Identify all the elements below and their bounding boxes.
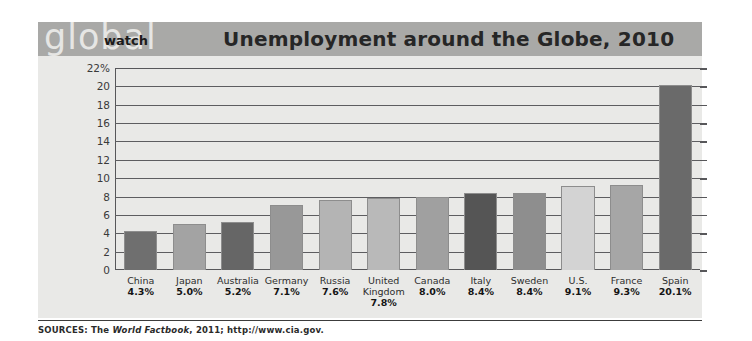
- y-axis-right-tick: [700, 270, 707, 272]
- bar-slot: [214, 68, 263, 270]
- y-axis-tick-label: 16: [50, 117, 110, 129]
- bar-slot: [117, 68, 166, 270]
- category-cell: Canada8.0%: [408, 272, 457, 309]
- category-name: Italy: [458, 275, 505, 286]
- y-axis-right-tick: [700, 197, 707, 199]
- category-cell: Japan5.0%: [165, 272, 214, 309]
- bar-france[interactable]: [610, 185, 643, 270]
- y-axis-right-tick: [700, 178, 707, 180]
- category-cell: U.S.9.1%: [554, 272, 603, 309]
- category-name: Japan: [166, 275, 213, 286]
- category-cell: United Kingdom7.8%: [359, 272, 408, 309]
- bar-slot: [457, 68, 506, 270]
- bars-container: [117, 68, 700, 270]
- source-divider: [38, 320, 702, 321]
- category-cell: France9.3%: [602, 272, 651, 309]
- bar-slot: [262, 68, 311, 270]
- bar-china[interactable]: [124, 231, 157, 270]
- category-value: 4.3%: [118, 286, 165, 298]
- bar-slot: [359, 68, 408, 270]
- chart-header-band: global watch Unemployment around the Glo…: [38, 22, 702, 56]
- category-value: 7.6%: [312, 286, 359, 298]
- bar-slot: [554, 68, 603, 270]
- y-axis-tick-label: 14: [50, 135, 110, 147]
- category-cell: Sweden8.4%: [505, 272, 554, 309]
- global-watch-logo: global watch: [44, 22, 244, 56]
- category-name: Canada: [409, 275, 456, 286]
- category-value: 8.0%: [409, 286, 456, 298]
- source-note: SOURCES: The World Factbook, 2011; http:…: [38, 325, 324, 335]
- category-name: China: [118, 275, 165, 286]
- bar-slot: [408, 68, 457, 270]
- y-axis-tick-label: 22%: [50, 62, 110, 74]
- source-publication: World Factbook: [113, 325, 190, 335]
- category-value: 5.2%: [215, 286, 262, 298]
- y-axis-tick-label: 18: [50, 99, 110, 111]
- category-name: Sweden: [506, 275, 553, 286]
- bar-slot: [505, 68, 554, 270]
- category-cell: Russia7.6%: [311, 272, 360, 309]
- category-name: Australia: [215, 275, 262, 286]
- category-name: Russia: [312, 275, 359, 286]
- y-axis-tick-label: 2: [50, 246, 110, 258]
- y-axis-right-tick: [700, 68, 707, 70]
- bar-japan[interactable]: [173, 224, 206, 270]
- category-labels: China4.3%Japan5.0%Australia5.2%Germany7.…: [117, 272, 700, 309]
- bar-slot: [602, 68, 651, 270]
- page-title: Unemployment around the Globe, 2010: [223, 22, 702, 56]
- category-cell: Australia5.2%: [214, 272, 263, 309]
- bar-spain[interactable]: [659, 85, 692, 270]
- category-value: 7.1%: [263, 286, 310, 298]
- y-axis-tick-label: 0: [50, 264, 110, 276]
- bar-slot: [311, 68, 360, 270]
- logo-watch-text: watch: [104, 34, 148, 48]
- category-name: Germany: [263, 275, 310, 286]
- category-name: U.S.: [555, 275, 602, 286]
- bar-slot: [651, 68, 700, 270]
- y-axis-right-tick: [700, 141, 707, 143]
- source-prefix: SOURCES: The: [38, 325, 113, 335]
- category-value: 5.0%: [166, 286, 213, 298]
- bar-italy[interactable]: [464, 193, 497, 270]
- y-axis-tick-label: 6: [50, 209, 110, 221]
- category-value: 20.1%: [652, 286, 699, 298]
- category-name: France: [603, 275, 650, 286]
- bar-slot: [165, 68, 214, 270]
- category-name: United Kingdom: [360, 275, 407, 297]
- bar-canada[interactable]: [416, 197, 449, 270]
- category-cell: Italy8.4%: [457, 272, 506, 309]
- y-axis-tick-label: 10: [50, 172, 110, 184]
- y-axis-right-tick: [700, 160, 707, 162]
- bar-u-s[interactable]: [561, 186, 594, 270]
- y-axis-tick-label: 8: [50, 191, 110, 203]
- bar-russia[interactable]: [319, 200, 352, 270]
- category-cell: Spain20.1%: [651, 272, 700, 309]
- y-axis-right-tick: [700, 123, 707, 125]
- chart-figure: global watch Unemployment around the Glo…: [38, 22, 702, 318]
- category-value: 9.3%: [603, 286, 650, 298]
- bar-united-kingdom[interactable]: [367, 198, 400, 270]
- category-name: Spain: [652, 275, 699, 286]
- y-axis-right-tick: [700, 233, 707, 235]
- source-suffix: , 2011; http://www.cia.gov.: [189, 325, 324, 335]
- bar-germany[interactable]: [270, 205, 303, 270]
- category-value: 8.4%: [458, 286, 505, 298]
- y-axis-right-tick: [700, 252, 707, 254]
- y-axis-tick-label: 20: [50, 80, 110, 92]
- bar-australia[interactable]: [221, 222, 254, 270]
- y-axis-tick-label: 4: [50, 227, 110, 239]
- category-cell: China4.3%: [117, 272, 166, 309]
- category-value: 8.4%: [506, 286, 553, 298]
- y-axis-right-tick: [700, 105, 707, 107]
- bar-sweden[interactable]: [513, 193, 546, 270]
- y-axis-tick-label: 12: [50, 154, 110, 166]
- category-cell: Germany7.1%: [262, 272, 311, 309]
- y-axis-right-tick: [700, 215, 707, 217]
- category-value: 9.1%: [555, 286, 602, 298]
- plot-region: 22%20181614121086420 China4.3%Japan5.0%A…: [38, 56, 702, 318]
- category-value: 7.8%: [360, 297, 407, 309]
- y-axis-right-tick: [700, 86, 707, 88]
